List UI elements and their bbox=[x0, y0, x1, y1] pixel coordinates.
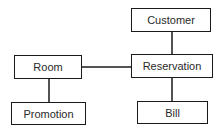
node-label: Bill bbox=[165, 107, 180, 119]
node-reservation: Reservation bbox=[131, 54, 213, 78]
node-bill: Bill bbox=[137, 101, 208, 124]
node-promotion: Promotion bbox=[11, 102, 86, 125]
diagram-canvas: Customer Room Reservation Promotion Bill bbox=[0, 0, 220, 132]
node-label: Reservation bbox=[143, 60, 202, 72]
node-label: Promotion bbox=[23, 108, 73, 120]
node-customer: Customer bbox=[131, 8, 211, 32]
node-label: Customer bbox=[147, 14, 195, 26]
node-label: Room bbox=[33, 61, 62, 73]
node-room: Room bbox=[14, 55, 82, 79]
